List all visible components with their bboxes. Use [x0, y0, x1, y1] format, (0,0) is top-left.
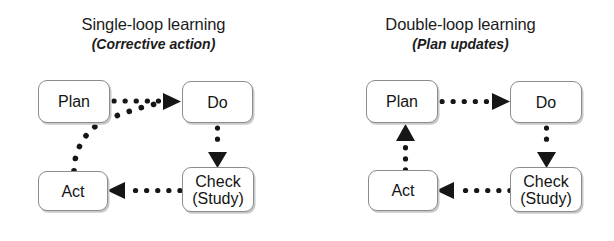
arrow-do-to-check [537, 128, 556, 168]
arrowhead-down [208, 152, 227, 168]
node-check-label2: (Study) [520, 190, 572, 207]
arrowhead-down [537, 152, 556, 168]
arrow-do-to-check [208, 128, 227, 168]
node-act-label: Act [61, 183, 84, 200]
node-plan[interactable]: Plan [366, 80, 438, 123]
node-plan[interactable]: Plan [38, 80, 110, 123]
arrowhead-left [436, 182, 454, 199]
node-act-label: Act [391, 182, 414, 199]
arrow-plan-to-do [442, 93, 510, 110]
node-act[interactable]: Act [38, 171, 108, 211]
node-do[interactable]: Do [182, 81, 253, 123]
arrow-act-to-plan [396, 124, 415, 170]
node-do-label: Do [536, 94, 556, 111]
arrow-check-to-act [436, 182, 510, 199]
node-act[interactable]: Act [368, 170, 438, 211]
node-check[interactable]: Check (Study) [510, 167, 582, 212]
node-plan-label: Plan [58, 93, 90, 110]
arrow-check-to-act [107, 182, 180, 199]
arrowhead-right [492, 93, 510, 110]
diagram-canvas: Single-loop learning (Corrective action) [0, 0, 614, 241]
arrowhead-up [396, 124, 415, 141]
arrowhead-right [163, 93, 181, 110]
node-do[interactable]: Do [510, 81, 582, 123]
arrowhead-left [107, 182, 125, 199]
node-check-label2: (Study) [192, 190, 244, 207]
node-plan-label: Plan [386, 93, 418, 110]
node-check-label: Check [195, 173, 240, 190]
arrow-plan-to-do [114, 93, 181, 110]
node-do-label: Do [207, 94, 227, 111]
panel-double-loop: Double-loop learning (Plan updates) [307, 0, 614, 241]
panel-single-loop: Single-loop learning (Corrective action) [0, 0, 307, 241]
node-check[interactable]: Check (Study) [182, 167, 254, 212]
node-check-label: Check [523, 173, 568, 190]
